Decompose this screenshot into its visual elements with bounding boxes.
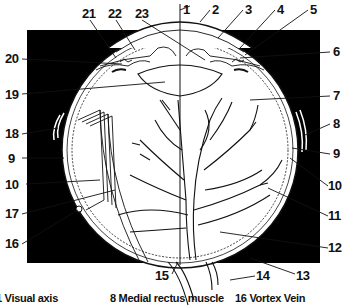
label-21: 21 <box>82 6 96 21</box>
label-4: 4 <box>277 2 285 17</box>
label-7: 7 <box>333 88 340 103</box>
eye-cross-section-diagram: 1 2 3 4 5 6 7 8 9 10 11 12 13 14 15 16 1… <box>0 0 345 305</box>
label-19: 19 <box>5 87 19 102</box>
label-23: 23 <box>135 6 149 21</box>
legend-vortex-vein: 16 Vortex Vein <box>235 292 305 304</box>
label-18: 18 <box>5 126 19 141</box>
legend-visual-axis: 1 Visual axis <box>0 292 58 304</box>
label-6: 6 <box>333 44 340 59</box>
label-16: 16 <box>5 236 19 251</box>
label-10-right: 10 <box>328 178 342 193</box>
label-2: 2 <box>212 2 219 17</box>
label-9-right: 9 <box>333 146 340 161</box>
label-8: 8 <box>333 116 340 131</box>
label-10-left: 10 <box>5 177 19 192</box>
legend-medial-rectus-muscle: 8 Medial rectus muscle <box>110 292 224 304</box>
label-12: 12 <box>328 240 342 255</box>
label-22: 22 <box>108 6 122 21</box>
label-1: 1 <box>183 2 190 17</box>
label-15: 15 <box>155 268 169 283</box>
label-17: 17 <box>5 206 19 221</box>
label-9-left: 9 <box>8 151 15 166</box>
label-3: 3 <box>245 2 252 17</box>
label-14: 14 <box>256 268 271 283</box>
label-20: 20 <box>5 51 19 66</box>
label-5: 5 <box>310 2 317 17</box>
label-13: 13 <box>296 268 310 283</box>
label-11: 11 <box>328 208 341 223</box>
